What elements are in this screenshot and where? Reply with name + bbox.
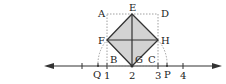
right-arrow-icon (212, 63, 222, 69)
tick-label-2: 2 (129, 70, 135, 81)
label-a: A (97, 8, 106, 19)
label-h: H (161, 35, 170, 46)
tick-label-1: 1 (104, 70, 110, 81)
label-g: G (135, 54, 143, 65)
label-b: B (110, 54, 117, 65)
label-d: D (161, 8, 169, 19)
label-p: P (164, 69, 171, 80)
left-arrow-icon (44, 63, 54, 69)
label-f: F (98, 35, 105, 46)
label-q: Q (93, 69, 101, 80)
diagram-canvas: A E D F H B G C Q P 1 2 3 4 (0, 0, 226, 84)
label-c: C (148, 54, 156, 65)
label-e: E (129, 2, 136, 13)
tick-label-4: 4 (180, 70, 186, 81)
tick-label-3: 3 (155, 70, 161, 81)
